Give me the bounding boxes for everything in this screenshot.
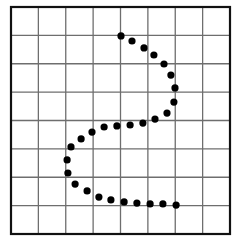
curve-dot: [167, 72, 174, 79]
curve-dot: [72, 181, 79, 188]
curve-dot: [101, 123, 108, 130]
curve-dot: [84, 187, 91, 194]
curve-dot: [78, 135, 85, 142]
curve-dot: [121, 198, 128, 205]
dot-grid-figure: [0, 0, 241, 245]
curve-dot: [67, 143, 74, 150]
curve-dot: [64, 169, 71, 176]
curve-dot: [140, 44, 147, 51]
curve-dot: [151, 116, 158, 123]
curve-dot: [113, 122, 120, 129]
curve-dot: [95, 194, 102, 201]
curve-dot: [163, 110, 170, 117]
curve-dot: [147, 200, 154, 207]
curve-dot: [128, 37, 135, 44]
curve-dot: [170, 99, 177, 106]
curve-dot: [127, 121, 134, 128]
curve-dot: [133, 200, 140, 207]
curve-dot: [173, 202, 180, 209]
curve-dot: [139, 120, 146, 127]
curve-dot: [159, 200, 166, 207]
curve-dot: [88, 129, 95, 136]
curve-dot: [107, 196, 114, 203]
curve-dot: [64, 156, 71, 163]
curve-dot: [160, 60, 167, 67]
curve-dot: [171, 84, 178, 91]
curve-dot: [117, 32, 124, 39]
curve-dot: [150, 51, 157, 58]
